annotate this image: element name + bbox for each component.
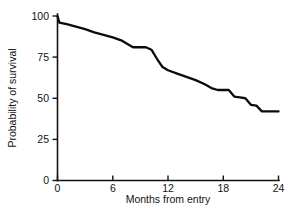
x-tick-label: 24 bbox=[273, 182, 285, 194]
survival-chart: 0255075100 06121824 Months from entry Pr… bbox=[0, 0, 304, 208]
y-tick-label: 0 bbox=[43, 174, 49, 186]
y-axis-tick-labels: 0255075100 bbox=[31, 10, 49, 187]
y-tick-label: 50 bbox=[37, 92, 49, 104]
y-tick-label: 25 bbox=[37, 133, 49, 145]
y-axis-title: Probability of survival bbox=[6, 48, 18, 147]
y-tick-label: 100 bbox=[31, 10, 49, 22]
x-tick-label: 0 bbox=[55, 182, 61, 194]
chart-canvas: 0255075100 06121824 Months from entry Pr… bbox=[0, 0, 304, 208]
y-tick-label: 75 bbox=[37, 51, 49, 63]
x-axis-title: Months from entry bbox=[126, 193, 211, 205]
x-tick-label: 6 bbox=[110, 182, 116, 194]
survival-curve-line bbox=[58, 16, 279, 111]
x-tick-label: 18 bbox=[217, 182, 229, 194]
